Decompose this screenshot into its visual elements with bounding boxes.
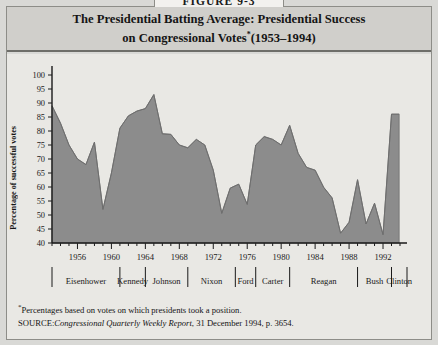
figure-body: Percentage of successful votes 404550556… bbox=[7, 54, 431, 339]
footnote-text: Percentages based on votes on which pres… bbox=[22, 305, 242, 315]
y-tick-label: 55 bbox=[37, 197, 45, 206]
frame-rule-right bbox=[431, 6, 432, 340]
frame-rule-bottom bbox=[6, 339, 432, 340]
x-tick-label: 1984 bbox=[307, 252, 325, 262]
x-tick-label: 1956 bbox=[69, 252, 87, 262]
y-tick-label: 65 bbox=[37, 169, 45, 178]
y-tick-label: 100 bbox=[32, 71, 45, 80]
president-label: Carter bbox=[262, 276, 284, 286]
president-labels: EisenhowerKennedyJohnsonNixonFordCarterR… bbox=[66, 276, 413, 286]
figure-title-line-1: The Presidential Batting Average: Presid… bbox=[73, 11, 366, 27]
x-axis-ticks bbox=[52, 243, 400, 249]
presidential-success-area-chart: 404550556065707580859095100 195619601964… bbox=[7, 54, 431, 292]
president-label: Ford bbox=[237, 276, 254, 286]
president-label: Johnson bbox=[152, 276, 181, 286]
y-tick-label: 70 bbox=[37, 155, 45, 164]
x-tick-label: 1964 bbox=[137, 252, 155, 262]
figure-footnotes: *Percentages based on votes on which pre… bbox=[18, 301, 423, 329]
y-tick-label: 40 bbox=[37, 239, 45, 248]
source-detail: , 31 December 1994, p. 3654. bbox=[192, 318, 294, 328]
president-label: Clinton bbox=[386, 276, 412, 286]
x-axis-tick-labels: 1956196019641968197219761980198419881992 bbox=[69, 252, 392, 262]
x-tick-label: 1960 bbox=[103, 252, 120, 262]
x-tick-label: 1968 bbox=[171, 252, 188, 262]
y-axis-tick-labels: 404550556065707580859095100 bbox=[32, 71, 45, 248]
x-tick-label: 1972 bbox=[205, 252, 222, 262]
president-label: Reagan bbox=[311, 276, 337, 286]
president-label: Kennedy bbox=[117, 276, 149, 286]
source-label: SOURCE: bbox=[18, 318, 54, 328]
x-tick-label: 1992 bbox=[374, 252, 391, 262]
y-tick-label: 50 bbox=[37, 211, 45, 220]
y-tick-label: 90 bbox=[37, 99, 45, 108]
figure-card: FIGURE 9-3 The Presidential Batting Aver… bbox=[0, 0, 438, 345]
y-tick-label: 60 bbox=[37, 183, 45, 192]
y-tick-label: 85 bbox=[37, 113, 45, 122]
y-tick-label: 75 bbox=[37, 141, 45, 150]
president-label: Bush bbox=[366, 276, 384, 286]
figure-title-years: (1953–1994) bbox=[251, 31, 316, 45]
figure-title-line-2: on Congressional Votes*(1953–1994) bbox=[122, 27, 315, 46]
y-tick-label: 45 bbox=[37, 225, 45, 234]
figure-title-band: The Presidential Batting Average: Presid… bbox=[7, 7, 431, 52]
x-tick-label: 1976 bbox=[239, 252, 257, 262]
chart-plot-area: 404550556065707580859095100 195619601964… bbox=[7, 54, 431, 292]
data-area bbox=[52, 95, 399, 243]
y-tick-label: 80 bbox=[37, 127, 45, 136]
footnote-percentages: *Percentages based on votes on which pre… bbox=[18, 301, 423, 316]
figure-title-subject: on Congressional Votes bbox=[122, 31, 246, 45]
president-label: Nixon bbox=[201, 276, 223, 286]
source-publication: Congressional Quarterly Weekly Report bbox=[54, 318, 192, 328]
president-label: Eisenhower bbox=[66, 276, 107, 286]
x-tick-label: 1980 bbox=[273, 252, 290, 262]
figure-source: SOURCE:Congressional Quarterly Weekly Re… bbox=[18, 317, 423, 330]
y-tick-label: 95 bbox=[37, 85, 45, 94]
x-tick-label: 1988 bbox=[340, 252, 357, 262]
